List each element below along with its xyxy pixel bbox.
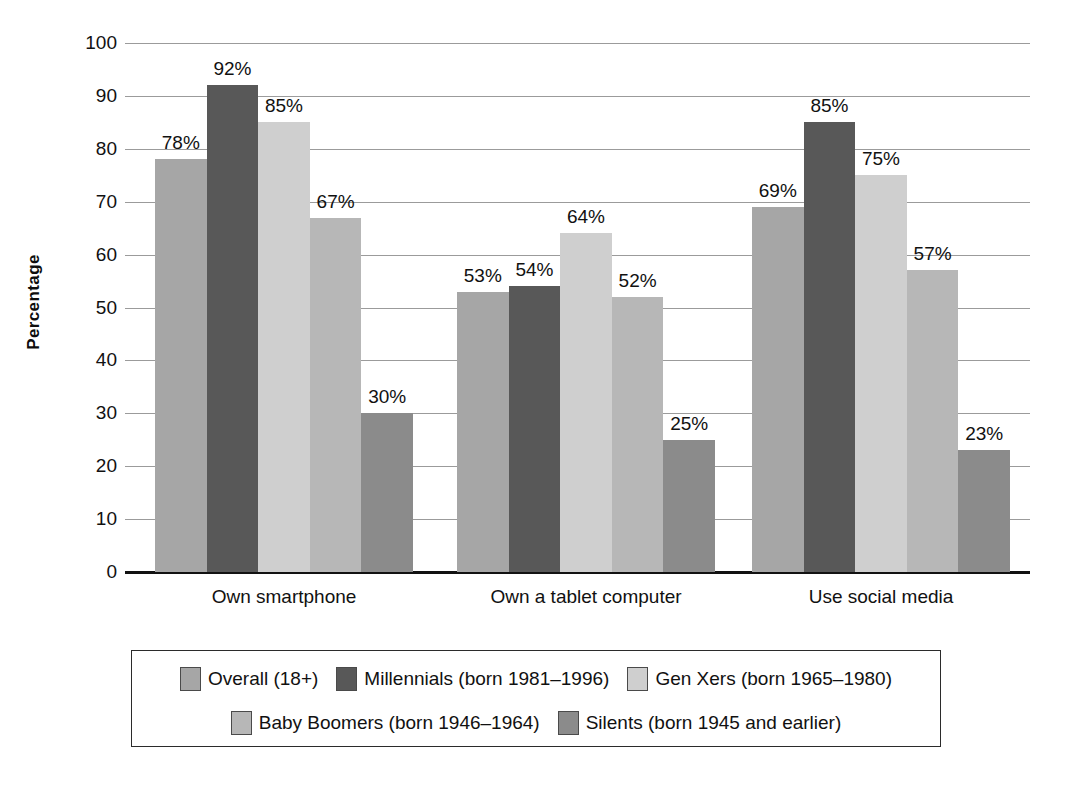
y-axis-tick-label: 80: [65, 138, 117, 160]
legend-row-primary: Overall (18+)Millennials (born 1981–1996…: [132, 657, 940, 701]
bar-chart-figure: Percentage 1009080706050403020100 78%53%…: [0, 0, 1070, 801]
y-axis-tick-label: 20: [65, 455, 117, 477]
y-axis-tick-labels: 1009080706050403020100: [55, 43, 117, 572]
legend-item: Millennials (born 1981–1996): [336, 667, 609, 691]
legend-swatch-icon: [558, 711, 579, 735]
bar-value-label: 64%: [552, 206, 620, 228]
gridline: [125, 43, 1030, 44]
bar-value-label: 67%: [302, 191, 370, 213]
y-axis-tick-label: 0: [65, 561, 117, 583]
legend-item-label: Overall (18+): [208, 668, 318, 690]
bar-value-label: 54%: [501, 259, 569, 281]
legend-swatch-icon: [336, 667, 357, 691]
legend-item: Gen Xers (born 1965–1980): [627, 667, 892, 691]
legend-swatch-icon: [627, 667, 648, 691]
bar-value-label: 85%: [250, 95, 318, 117]
bar: [855, 175, 907, 572]
bar-value-label: 85%: [796, 95, 864, 117]
bar-value-label: 52%: [604, 270, 672, 292]
y-axis-tick-label: 30: [65, 402, 117, 424]
legend-swatch-icon: [180, 667, 201, 691]
bar-value-label: 69%: [744, 180, 812, 202]
y-axis-title: Percentage: [24, 242, 44, 362]
legend-item-label: Baby Boomers (born 1946–1964): [259, 712, 540, 734]
bar: [457, 292, 509, 572]
x-axis-category-label: Use social media: [712, 586, 1050, 608]
legend-item-label: Gen Xers (born 1965–1980): [655, 668, 892, 690]
x-axis-category-label: Own a tablet computer: [417, 586, 755, 608]
bar: [752, 207, 804, 572]
bar: [907, 270, 959, 572]
legend-item: Baby Boomers (born 1946–1964): [231, 711, 540, 735]
bar: [663, 440, 715, 572]
bar-value-label: 23%: [950, 423, 1018, 445]
bar-value-label: 30%: [353, 386, 421, 408]
legend-item: Overall (18+): [180, 667, 318, 691]
bar-value-label: 25%: [655, 413, 723, 435]
y-axis-tick-label: 50: [65, 297, 117, 319]
plot-area: 78%53%69%92%54%85%85%64%75%67%52%57%30%2…: [125, 43, 1030, 572]
bar: [361, 413, 413, 572]
bar: [509, 286, 561, 572]
legend-item-label: Silents (born 1945 and earlier): [586, 712, 842, 734]
legend-row-secondary: Baby Boomers (born 1946–1964)Silents (bo…: [132, 701, 940, 745]
chart-legend: Overall (18+)Millennials (born 1981–1996…: [131, 650, 941, 747]
x-axis-category-label: Own smartphone: [115, 586, 453, 608]
bar: [155, 159, 207, 572]
bar-value-label: 78%: [147, 132, 215, 154]
bar-value-label: 57%: [899, 243, 967, 265]
y-axis-tick-label: 10: [65, 508, 117, 530]
x-axis-category-labels: Own smartphoneOwn a tablet computerUse s…: [125, 586, 1030, 616]
legend-swatch-icon: [231, 711, 252, 735]
y-axis-tick-label: 60: [65, 244, 117, 266]
legend-item-label: Millennials (born 1981–1996): [364, 668, 609, 690]
y-axis-tick-label: 90: [65, 85, 117, 107]
bar: [958, 450, 1010, 572]
y-axis-tick-label: 100: [65, 32, 117, 54]
legend-item: Silents (born 1945 and earlier): [558, 711, 842, 735]
bar: [207, 85, 259, 572]
y-axis-tick-label: 40: [65, 349, 117, 371]
bar-value-label: 75%: [847, 148, 915, 170]
bar-value-label: 92%: [199, 58, 267, 80]
y-axis-tick-label: 70: [65, 191, 117, 213]
